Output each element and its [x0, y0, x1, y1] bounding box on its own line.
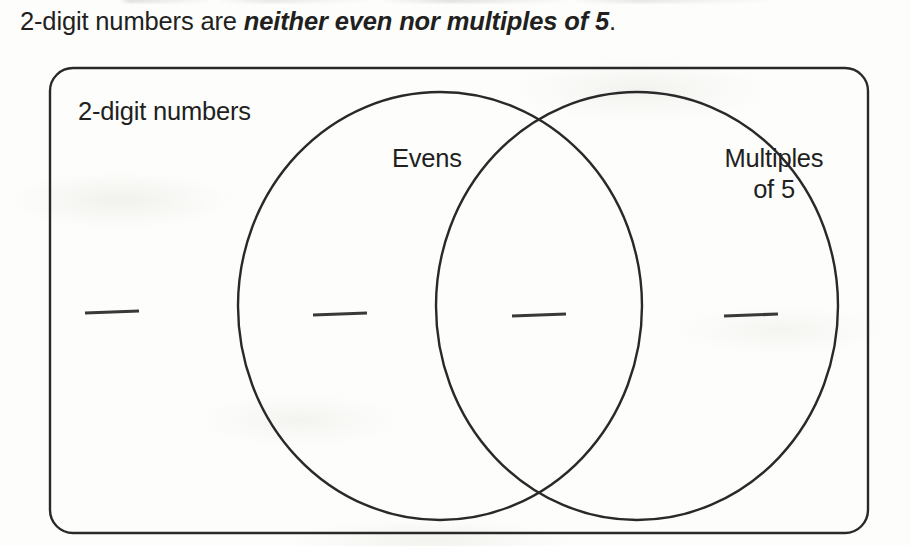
set-label-multiples-of-5: Multiples of 5 — [713, 143, 835, 205]
answer-blank-outside-both[interactable] — [85, 311, 139, 313]
universe-rectangle — [50, 68, 868, 533]
set-label-evens: Evens — [392, 143, 462, 174]
answer-blank-intersection[interactable] — [512, 314, 566, 316]
worksheet-page: 2-digit numbers are neither even nor mul… — [0, 0, 910, 546]
venn-diagram-svg — [0, 0, 910, 546]
answer-blank-multiples-only[interactable] — [724, 314, 778, 316]
universe-label: 2-digit numbers — [78, 96, 251, 127]
answer-blank-evens-only[interactable] — [313, 313, 367, 315]
venn-diagram: 2-digit numbers Evens Multiples of 5 — [0, 0, 910, 546]
